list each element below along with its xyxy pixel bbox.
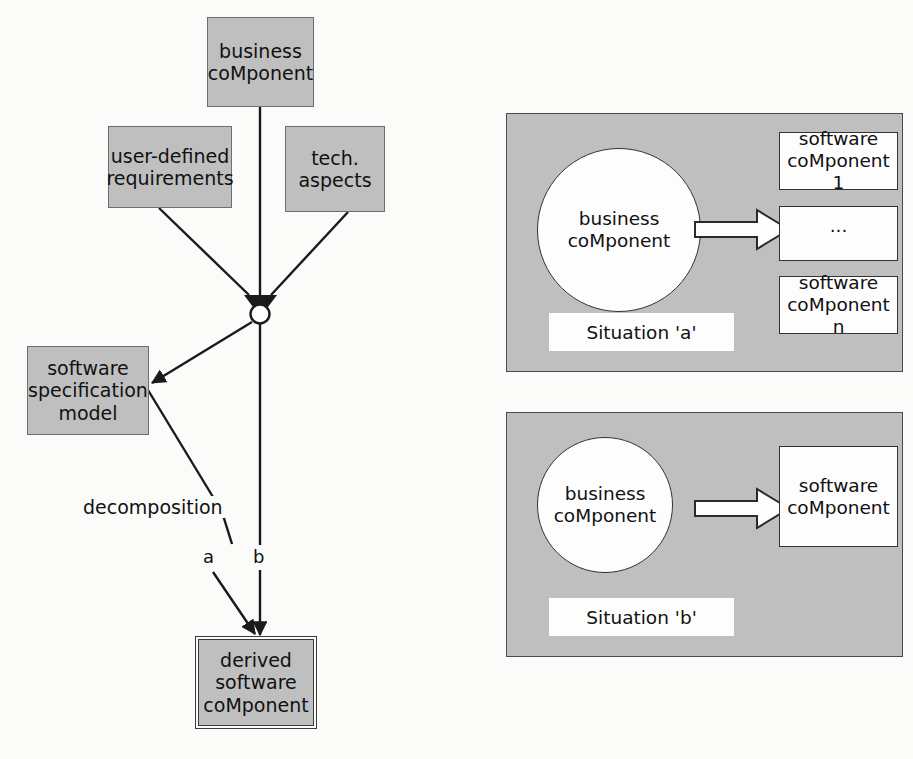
situation-b-business-component-label: business coMponent bbox=[554, 483, 657, 527]
node-derived-software-component-label: derived software coMponent bbox=[203, 649, 308, 716]
node-derived-software-component[interactable]: derived software coMponent bbox=[195, 636, 317, 729]
node-software-specification-model-label: software specification model bbox=[28, 357, 148, 424]
situation-a-target-n-label: software coMponent n bbox=[780, 272, 897, 337]
situation-b-target-1[interactable]: software coMponent bbox=[779, 446, 898, 547]
node-user-defined-requirements[interactable]: user-defined requirements bbox=[108, 126, 232, 208]
situation-a-target-ellipsis-label: ... bbox=[830, 215, 848, 237]
situation-a-caption-label: Situation 'a' bbox=[586, 322, 696, 343]
situation-a-target-1-label: software coMponent 1 bbox=[780, 128, 897, 193]
node-tech-aspects-label: tech. aspects bbox=[298, 147, 371, 192]
node-business-component-label: business coMponent bbox=[208, 40, 313, 85]
situation-b-target-1-label: software coMponent bbox=[787, 475, 890, 519]
node-tech-aspects[interactable]: tech. aspects bbox=[285, 126, 385, 212]
junction-circle-marker bbox=[251, 305, 270, 324]
node-user-defined-requirements-label: user-defined requirements bbox=[106, 145, 233, 190]
situation-a-target-1[interactable]: software coMponent 1 bbox=[779, 132, 898, 190]
situation-a-caption: Situation 'a' bbox=[549, 313, 734, 351]
edge-requirements-to-junction bbox=[159, 208, 249, 295]
situation-b-business-component[interactable]: business coMponent bbox=[537, 437, 673, 573]
edge-label-decomposition: decomposition bbox=[81, 496, 225, 518]
edge-spec-model-to-decomposition bbox=[148, 390, 213, 497]
edge-label-branch-b: b bbox=[253, 546, 264, 567]
junction-filled-marker bbox=[244, 295, 277, 307]
diagram-canvas: business coMponent user-defined requirem… bbox=[0, 0, 913, 759]
edge-label-branch-a: a bbox=[203, 546, 214, 567]
edge-a-to-derived bbox=[213, 572, 255, 634]
situation-b-caption-label: Situation 'b' bbox=[586, 607, 696, 628]
edge-junction-to-spec-model bbox=[152, 322, 252, 383]
node-business-component[interactable]: business coMponent bbox=[207, 17, 314, 107]
situation-a-target-ellipsis[interactable]: ... bbox=[779, 206, 898, 261]
panel-situation-b: business coMponent software coMponent Si… bbox=[506, 412, 903, 657]
node-software-specification-model[interactable]: software specification model bbox=[27, 346, 149, 435]
situation-b-caption: Situation 'b' bbox=[549, 598, 734, 636]
edge-tech-aspects-to-junction bbox=[271, 212, 348, 295]
situation-a-target-n[interactable]: software coMponent n bbox=[779, 276, 898, 334]
situation-a-business-component-label: business coMponent bbox=[568, 208, 671, 252]
situation-a-business-component[interactable]: business coMponent bbox=[537, 148, 701, 312]
panel-situation-a: business coMponent software coMponent 1 … bbox=[506, 113, 903, 372]
